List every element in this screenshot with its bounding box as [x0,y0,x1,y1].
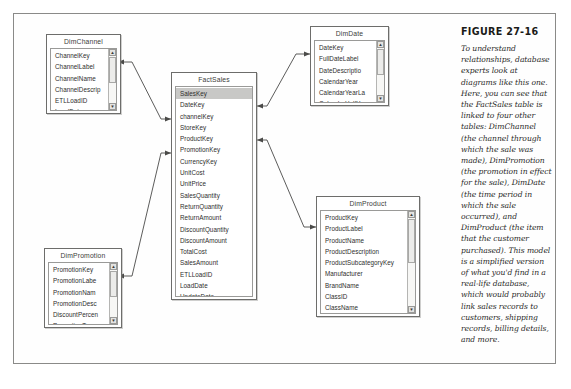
scroll-down-icon[interactable]: ▼ [408,306,415,313]
field-item[interactable]: DateKey [176,99,252,110]
connector-dimpromotion-factsales [118,150,171,278]
scroll-up-icon[interactable]: ▲ [109,49,116,56]
table-dimchannel[interactable]: DimChannel ChannelKey ChannelLabel Chann… [46,34,121,114]
schema-diagram: DimChannel ChannelKey ChannelLabel Chann… [14,14,450,363]
field-list-dimpromotion: PromotionKey PromotionLabe PromotionNam … [49,263,117,325]
field-item[interactable]: DiscountAmount [176,235,252,246]
field-item[interactable]: ETLLoadID [176,269,252,280]
field-item[interactable]: PromotionLabe [49,275,117,286]
scrollbar-dimdate[interactable]: ▲ ▼ [376,41,384,102]
field-item[interactable]: ProductDescription [321,246,415,257]
scrollbar-thumb[interactable] [110,271,117,297]
scrollbar-dimpromotion[interactable]: ▲ ▼ [109,263,117,324]
field-item[interactable]: Manufacturer [321,268,415,279]
field-item[interactable]: TotalCost [176,246,252,257]
field-list-dimchannel: ChannelKey ChannelLabel ChannelName Chan… [51,49,116,111]
field-item[interactable]: UpdateDate [176,291,252,297]
field-item[interactable]: LoadDate [176,280,252,291]
field-item[interactable]: UnitCost [176,167,252,178]
scroll-down-icon[interactable]: ▼ [377,95,384,102]
field-item[interactable]: PromotionKey [49,264,117,275]
field-item[interactable]: CalendarHalfYe [315,98,384,103]
field-item[interactable]: ReturnAmount [176,212,252,223]
field-item[interactable]: ProductName [321,235,415,246]
field-item[interactable]: ProductKey [176,133,252,144]
connector-factsales-dimdate [257,51,310,108]
field-item[interactable]: FullDateLabel [315,53,384,64]
field-area-dimpromotion: PromotionKey PromotionLabe PromotionNam … [48,262,118,325]
field-item[interactable]: ChannelDescrip [51,84,116,95]
field-item[interactable]: DateDescriptio [315,65,384,76]
table-title-dimdate: DimDate [311,27,388,40]
field-item[interactable]: BrandName [321,280,415,291]
field-area-factsales: SalesKey DateKey channelKey StoreKey Pro… [175,86,253,297]
field-item[interactable]: PromotionKey [176,144,252,155]
scrollbar-thumb[interactable] [109,57,116,83]
table-title-factsales: FactSales [172,73,256,86]
figure-caption-text: To understand relationships, database ex… [461,43,553,345]
field-area-dimproduct: ProductKey ProductLabel ProductName Prod… [320,210,416,314]
connector-factsales-dimproduct [257,137,316,229]
field-item[interactable]: ChannelName [51,73,116,84]
scrollbar-thumb[interactable] [377,49,384,75]
field-item[interactable]: ClassID [321,291,415,302]
table-title-dimchannel: DimChannel [47,35,120,48]
table-dimdate[interactable]: DimDate DateKey FullDateLabel DateDescri… [310,26,389,106]
field-list-dimproduct: ProductKey ProductLabel ProductName Prod… [321,211,415,314]
scrollbar-dimchannel[interactable]: ▲ ▼ [108,49,116,110]
field-item[interactable]: StoreKey [176,122,252,133]
field-item[interactable]: DateKey [315,42,384,53]
connector-dimchannel-factsales [118,59,171,121]
scroll-up-icon[interactable]: ▲ [110,263,117,270]
field-item[interactable]: CurrencyKey [176,156,252,167]
field-item[interactable]: ClassName [321,302,415,313]
field-item[interactable]: DiscountQuantity [176,224,252,235]
table-factsales[interactable]: FactSales SalesKey DateKey channelKey St… [171,72,257,300]
scrollbar-thumb[interactable] [408,219,415,263]
scrollbar-dimproduct[interactable]: ▲ ▼ [407,211,415,313]
field-item[interactable]: ProductLabel [321,223,415,234]
scroll-up-icon[interactable]: ▲ [408,211,415,218]
field-item[interactable]: ChannelKey [51,50,116,61]
field-item[interactable]: ReturnQuantity [176,201,252,212]
table-dimproduct[interactable]: DimProduct ProductKey ProductLabel Produ… [316,196,420,317]
field-item[interactable]: PromotionDesc [49,298,117,309]
figure-page: DimChannel ChannelKey ChannelLabel Chann… [0,0,571,389]
field-item[interactable]: SalesAmount [176,257,252,268]
field-item[interactable]: PromotionType [49,320,117,325]
field-item[interactable]: ChannelLabel [51,61,116,72]
figure-caption: FIGURE 27-16 To understand relationships… [461,26,553,345]
scroll-down-icon[interactable]: ▼ [109,103,116,110]
field-item[interactable]: DiscountPercen [49,309,117,320]
table-dimpromotion[interactable]: DimPromotion PromotionKey PromotionLabe … [44,248,122,328]
field-list-dimdate: DateKey FullDateLabel DateDescriptio Cal… [315,41,384,103]
field-item[interactable]: PromotionNam [49,287,117,298]
field-item[interactable]: UnitPrice [176,178,252,189]
field-item-selected[interactable]: SalesKey [176,88,252,99]
field-list-factsales: SalesKey DateKey channelKey StoreKey Pro… [176,87,252,297]
scroll-up-icon[interactable]: ▲ [377,41,384,48]
field-item[interactable]: ProductSubcategoryKey [321,257,415,268]
table-title-dimpromotion: DimPromotion [45,249,121,262]
field-item[interactable]: SalesQuantity [176,190,252,201]
figure-label: FIGURE 27-16 [461,26,553,37]
field-area-dimchannel: ChannelKey ChannelLabel ChannelName Chan… [50,48,117,111]
field-item[interactable]: ProductKey [321,212,415,223]
field-item[interactable]: channelKey [176,111,252,122]
field-item[interactable]: CalendarYear [315,76,384,87]
scroll-down-icon[interactable]: ▼ [110,317,117,324]
field-item[interactable]: ETLLoadID [51,95,116,106]
field-item[interactable]: CalendarYearLa [315,87,384,98]
field-area-dimdate: DateKey FullDateLabel DateDescriptio Cal… [314,40,385,103]
field-item[interactable]: LoadDate [51,106,116,111]
table-title-dimproduct: DimProduct [317,197,419,210]
